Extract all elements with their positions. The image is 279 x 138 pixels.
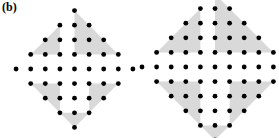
lattice-dot [131, 67, 136, 72]
lattice-dot [198, 6, 203, 11]
lattice-dot [87, 81, 92, 86]
lattice-dot [58, 37, 63, 42]
lattice-dot [58, 23, 63, 28]
lattice-diagram [0, 0, 279, 138]
lattice-dot [28, 52, 33, 57]
shaded-region-right-diamond-lower-left [157, 82, 201, 126]
lattice-dot [227, 65, 232, 70]
lattice-dot [198, 94, 203, 99]
lattice-dot [198, 21, 203, 26]
lattice-dot [72, 110, 77, 115]
lattice-dot [242, 21, 247, 26]
lattice-dot [242, 50, 247, 55]
lattice-dot [87, 67, 92, 72]
lattice-dot [116, 81, 121, 86]
lattice-dot [256, 65, 261, 70]
lattice-dot [43, 67, 48, 72]
lattice-dot [227, 123, 232, 128]
lattice-dot [72, 52, 77, 57]
lattice-dot [101, 52, 106, 57]
lattice-dot [58, 96, 63, 101]
lattice-dot [183, 94, 188, 99]
lattice-dot [14, 67, 19, 72]
lattice-dot [242, 35, 247, 40]
lattice-dot [28, 81, 33, 86]
lattice-dot [58, 52, 63, 57]
lattice-dot [227, 6, 232, 11]
lattice-dot [72, 23, 77, 28]
lattice-dot [58, 81, 63, 86]
lattice-dot [256, 50, 261, 55]
lattice-dot [213, 94, 218, 99]
lattice-dot [58, 67, 63, 72]
lattice-dot [87, 52, 92, 57]
lattice-dot [213, 50, 218, 55]
lattice-dot [242, 65, 247, 70]
lattice-dot [28, 67, 33, 72]
lattice-dot [198, 79, 203, 84]
lattice-dot [169, 35, 174, 40]
lattice-dot [72, 8, 77, 13]
shaded-region-right-diamond-upper-right [215, 0, 273, 52]
lattice-dot [213, 79, 218, 84]
lattice-dot [242, 79, 247, 84]
lattice-dot [72, 81, 77, 86]
lattice-dot [101, 96, 106, 101]
lattice-dot [227, 35, 232, 40]
lattice-dot [154, 79, 159, 84]
lattice-dot [256, 94, 261, 99]
lattice-dot [87, 37, 92, 42]
lattice-dot [101, 67, 106, 72]
lattice-dot [198, 123, 203, 128]
lattice-dot [242, 108, 247, 113]
lattice-dot [43, 37, 48, 42]
lattice-dot [213, 21, 218, 26]
lattice-dot [169, 65, 174, 70]
lattice-dot [140, 65, 145, 70]
lattice-dot [213, 65, 218, 70]
lattice-dot [183, 108, 188, 113]
lattice-dot [72, 67, 77, 72]
lattice-dot [213, 123, 218, 128]
lattice-dot [242, 94, 247, 99]
lattice-dot [213, 108, 218, 113]
lattice-dot [169, 79, 174, 84]
lattice-dot [271, 79, 276, 84]
lattice-dot [256, 79, 261, 84]
lattice-dot [227, 79, 232, 84]
lattice-dot [213, 35, 218, 40]
lattice-dot [227, 50, 232, 55]
lattice-dot [227, 94, 232, 99]
lattice-dot [116, 67, 121, 72]
lattice-dot [116, 52, 121, 57]
lattice-dot [183, 35, 188, 40]
shaded-region-right-diamond-upper-left [157, 9, 201, 53]
lattice-dot [271, 65, 276, 70]
lattice-dot [227, 21, 232, 26]
shaded-region-left-diamond-upper-right [75, 11, 119, 55]
lattice-dot [43, 52, 48, 57]
lattice-dot [72, 37, 77, 42]
lattice-dot [213, 6, 218, 11]
lattice-dot [87, 110, 92, 115]
lattice-dot [198, 50, 203, 55]
lattice-dot [101, 81, 106, 86]
lattice-dot [72, 125, 77, 130]
lattice-dot [198, 35, 203, 40]
lattice-dot [198, 108, 203, 113]
shaded-regions-layer [31, 0, 274, 138]
lattice-dot [154, 65, 159, 70]
figure-panel: (b) [0, 0, 279, 138]
lattice-dot [271, 50, 276, 55]
lattice-dot [101, 37, 106, 42]
lattice-dot [43, 81, 48, 86]
lattice-dot [58, 110, 63, 115]
lattice-dot [43, 96, 48, 101]
lattice-dot [183, 21, 188, 26]
lattice-dot [183, 65, 188, 70]
lattice-dot [169, 94, 174, 99]
lattice-dot [87, 23, 92, 28]
lattice-dot [87, 96, 92, 101]
lattice-dot [183, 79, 188, 84]
lattice-dot [154, 50, 159, 55]
